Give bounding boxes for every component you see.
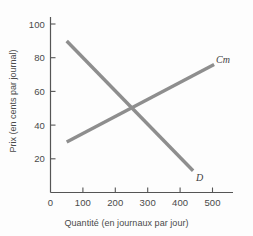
x-tick-label-500: 500 <box>201 197 224 208</box>
x-tick-label-300: 300 <box>136 197 159 208</box>
y-tick-label-40: 40 <box>18 120 45 131</box>
y-tick-label-20: 20 <box>18 153 45 164</box>
y-tick-label-100: 100 <box>18 19 45 30</box>
y-tick-label-60: 60 <box>18 86 45 97</box>
x-tick-label-200: 200 <box>104 197 127 208</box>
chart-figure: 100 80 60 40 20 0 100 200 300 400 500 Cm… <box>0 0 253 236</box>
x-tick-label-400: 400 <box>169 197 192 208</box>
demand-curve <box>67 41 193 171</box>
y-axis-title: Prix (en cents par journal) <box>8 26 18 176</box>
demand-curve-label: D <box>196 172 203 183</box>
y-axis-title-container: Prix (en cents par journal) <box>0 0 20 200</box>
x-tick-label-100: 100 <box>71 197 94 208</box>
supply-curve-label: Cm <box>216 54 230 65</box>
x-tick-label-0: 0 <box>39 197 62 208</box>
supply-curve <box>67 65 214 143</box>
y-axis-ticks <box>51 24 56 159</box>
x-axis-ticks <box>83 188 213 193</box>
x-axis-title: Quantité (en journaux par jour) <box>0 218 253 228</box>
y-tick-label-80: 80 <box>18 52 45 63</box>
